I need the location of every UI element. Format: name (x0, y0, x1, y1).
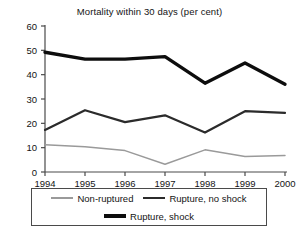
legend-item-rupture-no-shock: Rupture, no shock (143, 193, 246, 204)
svg-text:40: 40 (26, 69, 37, 80)
legend: Non-ruptured Rupture, no shock Rupture, … (31, 188, 267, 226)
svg-text:2000: 2000 (274, 178, 295, 189)
legend-swatch-icon-rupture-no-shock (143, 197, 165, 199)
legend-label-non-ruptured: Non-ruptured (77, 193, 133, 204)
legend-item-non-ruptured: Non-ruptured (51, 193, 133, 204)
x-axis: 1994199519961997199819992000 (34, 172, 295, 189)
y-axis: 0102030405060 (26, 21, 45, 178)
legend-item-rupture-shock: Rupture, shock (104, 211, 194, 222)
svg-text:30: 30 (26, 94, 37, 105)
legend-row-bottom: Rupture, shock (32, 207, 266, 225)
svg-text:60: 60 (26, 21, 37, 32)
legend-swatch-icon-rupture-shock (104, 214, 126, 217)
legend-label-rupture-shock: Rupture, shock (130, 211, 194, 222)
svg-text:10: 10 (26, 142, 37, 153)
legend-row-top: Non-ruptured Rupture, no shock (32, 189, 266, 207)
chart-container: Mortality within 30 days (per cent) 0102… (0, 0, 299, 233)
legend-label-rupture-no-shock: Rupture, no shock (169, 193, 246, 204)
svg-text:20: 20 (26, 118, 37, 129)
legend-swatch-icon-non-ruptured (51, 197, 73, 199)
series-lines (45, 52, 285, 164)
svg-text:50: 50 (26, 45, 37, 56)
svg-text:0: 0 (32, 167, 37, 178)
